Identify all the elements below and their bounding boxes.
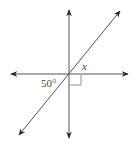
angle-label: 50° (41, 77, 56, 89)
diagram: 50° x (0, 0, 137, 145)
unknown-label: x (81, 60, 87, 72)
right-angle-marker (70, 75, 81, 85)
